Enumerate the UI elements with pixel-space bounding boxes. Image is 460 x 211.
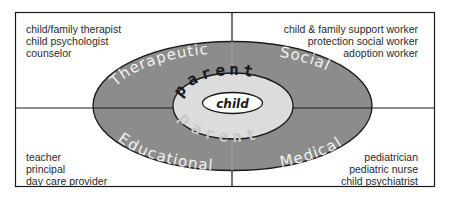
role-item: teacher: [26, 151, 107, 163]
role-item: child psychologist: [26, 35, 121, 47]
role-item: child/family therapist: [26, 23, 121, 35]
role-item: day care provider: [26, 175, 107, 187]
role-item: protection social worker: [284, 35, 418, 47]
social-roles-list: child & family support worker protection…: [284, 23, 418, 59]
role-item: adoption worker: [284, 47, 418, 59]
medical-roles-list: pediatrician pediatric nurse child psych…: [341, 151, 418, 187]
educational-roles-list: teacher principal day care provider: [26, 151, 107, 187]
therapeutic-roles-list: child/family therapist child psychologis…: [26, 23, 121, 59]
child-label: child: [216, 97, 249, 111]
role-item: pediatric nurse: [341, 163, 418, 175]
role-item: pediatrician: [341, 151, 418, 163]
role-item: child & family support worker: [284, 23, 418, 35]
role-item: counselor: [26, 47, 121, 59]
role-item: child psychiatrist: [341, 175, 418, 187]
role-item: principal: [26, 163, 107, 175]
